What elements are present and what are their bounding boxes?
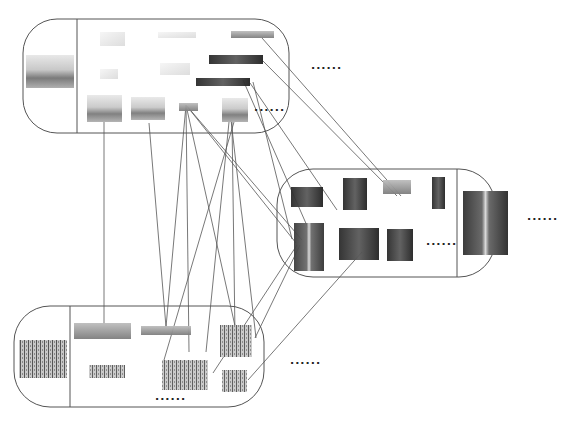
member-image-patch <box>432 177 445 209</box>
connection-line <box>255 245 300 338</box>
member-image-patch <box>339 228 379 260</box>
group-bottom <box>14 306 264 407</box>
more-groups-ellipsis: ...... <box>290 355 321 366</box>
connection-line <box>186 105 189 352</box>
more-members-ellipsis: ...... <box>254 102 285 113</box>
member-image-patch <box>220 325 252 357</box>
group-top <box>23 19 289 133</box>
member-image-patch <box>343 178 367 210</box>
member-image-patch <box>231 31 274 38</box>
member-image-patch <box>291 187 323 207</box>
member-image-patch <box>100 32 125 46</box>
member-image-patch <box>196 78 250 86</box>
representative-image <box>19 340 67 378</box>
member-image-patch <box>141 326 191 335</box>
member-image-patch <box>222 98 248 122</box>
member-image-patch <box>294 223 324 271</box>
cluster-groups <box>14 19 508 407</box>
member-image-patch <box>179 103 198 111</box>
member-image-patch <box>222 370 247 392</box>
member-image-patch <box>160 63 190 75</box>
more-members-ellipsis: ...... <box>155 391 186 402</box>
more-groups-ellipsis: ...... <box>527 211 558 222</box>
representative-image <box>26 55 74 88</box>
member-image-patch <box>74 323 131 339</box>
member-image-patch <box>87 95 122 122</box>
representative-image <box>463 191 508 255</box>
connection-line <box>186 105 302 240</box>
connection-line <box>149 123 166 327</box>
member-image-patch <box>89 365 125 378</box>
member-image-patch <box>158 32 196 38</box>
member-image-patch <box>383 180 411 194</box>
member-image-patch <box>100 69 118 79</box>
group-right <box>277 169 508 277</box>
more-members-ellipsis: ...... <box>426 236 457 247</box>
member-image-patch <box>387 229 413 261</box>
member-image-patch <box>162 360 208 390</box>
connection-line <box>262 60 397 196</box>
member-image-patch <box>209 55 263 64</box>
connection-line <box>206 122 229 352</box>
member-image-patch <box>131 97 165 120</box>
connection-line <box>166 105 186 327</box>
connection-line <box>164 122 234 360</box>
more-groups-ellipsis: ...... <box>311 60 342 71</box>
